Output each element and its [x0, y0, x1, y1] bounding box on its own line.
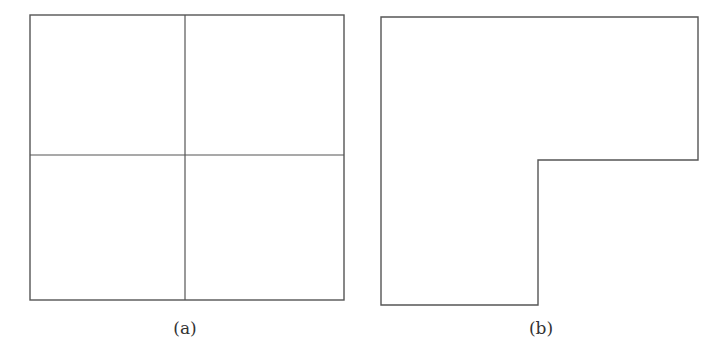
caption-b: (b)	[529, 318, 553, 338]
l-shape-outline	[381, 17, 698, 305]
figure-b-l-shape	[381, 17, 698, 305]
square-outline	[30, 15, 344, 300]
figure-canvas	[0, 0, 723, 363]
caption-a: (a)	[173, 318, 196, 338]
figure-a-quadrant-square	[30, 15, 344, 300]
